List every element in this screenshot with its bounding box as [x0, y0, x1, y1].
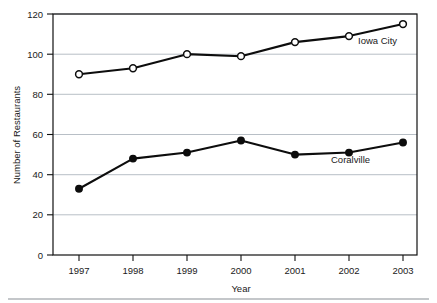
data-point	[184, 51, 191, 58]
x-axis-title: Year	[231, 283, 250, 294]
data-point	[238, 137, 244, 143]
x-tick-label-1999: 1999	[176, 265, 197, 276]
x-tick-label-2003: 2003	[392, 265, 413, 276]
y-tick-label-0: 0	[38, 250, 43, 261]
series-annotation-iowa-city: Iowa City	[358, 35, 397, 46]
x-tick-label-2000: 2000	[230, 265, 251, 276]
x-axis-tick-labels: 1997 1998 1999 2000 2001 2002 2003	[68, 265, 413, 276]
data-point	[346, 33, 353, 40]
x-tick-label-1997: 1997	[68, 265, 89, 276]
data-point	[130, 155, 136, 161]
data-point	[76, 71, 83, 78]
chart-figure: 120 100 80 60 40 20 0 1997 1998 1999 200…	[0, 0, 437, 303]
data-point	[292, 39, 299, 46]
y-tick-label-100: 100	[27, 49, 43, 60]
line-chart: 120 100 80 60 40 20 0 1997 1998 1999 200…	[0, 0, 437, 303]
data-point	[400, 139, 406, 145]
data-point	[238, 53, 245, 60]
series-annotation-coralville: Coralville	[331, 154, 370, 165]
data-point	[292, 151, 298, 157]
y-tick-label-20: 20	[32, 209, 43, 220]
y-axis-title: Number of Restaurants	[11, 86, 22, 184]
y-tick-label-60: 60	[32, 129, 43, 140]
y-tick-label-40: 40	[32, 169, 43, 180]
data-point	[400, 21, 407, 28]
data-point	[184, 149, 190, 155]
y-tick-label-120: 120	[27, 9, 43, 20]
x-tick-label-1998: 1998	[122, 265, 143, 276]
data-point	[76, 186, 82, 192]
x-axis-ticks	[79, 255, 403, 261]
x-tick-label-2002: 2002	[338, 265, 359, 276]
y-axis-tick-labels: 120 100 80 60 40 20 0	[27, 9, 43, 261]
x-tick-label-2001: 2001	[284, 265, 305, 276]
y-tick-label-80: 80	[32, 89, 43, 100]
y-axis-ticks	[47, 14, 53, 255]
data-point	[130, 65, 137, 72]
